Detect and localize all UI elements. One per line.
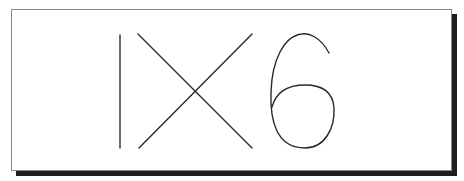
glyph-6 [271,34,334,148]
glyph-x [138,34,252,148]
captcha-image [0,0,464,181]
